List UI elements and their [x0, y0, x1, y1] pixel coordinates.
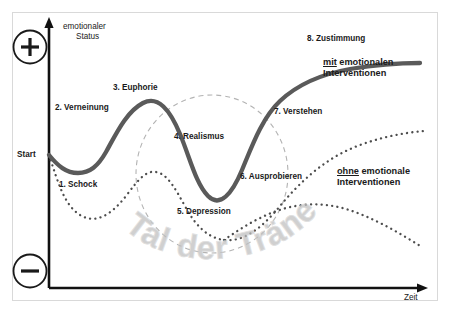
- legend-with-interventions: mit emotionalen Interventionen: [323, 57, 393, 79]
- legend-without-line1: ohne emotionale: [337, 166, 410, 177]
- legend-with-line1: mit emotionalen: [323, 57, 393, 68]
- diagram-canvas: Tal der Tränen: [0, 0, 450, 315]
- y-axis-label-line2: Status: [63, 32, 106, 42]
- legend-with-emphasis: mit: [323, 57, 337, 67]
- legend-without-emphasis: ohne: [337, 166, 359, 176]
- stage-label-zustimmung: 8. Zustimmung: [307, 34, 365, 44]
- start-label: Start: [17, 150, 36, 160]
- stage-label-ausprobieren: 6. Ausprobieren: [240, 172, 302, 182]
- stage-label-depression: 5. Depression: [177, 207, 231, 217]
- y-axis-label-line1: emotionaler: [63, 22, 106, 32]
- negative-symbol-icon: [14, 255, 47, 288]
- legend-with-rest: emotionalen: [337, 57, 394, 67]
- tal-der-traenen-diagram: Tal der Tränen emotionaler Status Zeit S…: [0, 0, 450, 315]
- positive-symbol-icon: [14, 31, 47, 64]
- stage-label-verstehen: 7. Verstehen: [274, 107, 322, 117]
- stage-label-euphorie: 3. Euphorie: [113, 83, 158, 93]
- y-axis-label: emotionaler Status: [63, 22, 106, 41]
- stage-label-realismus: 4. Realismus: [174, 132, 224, 142]
- legend-without-line2: Interventionen: [337, 177, 410, 188]
- legend-without-interventions: ohne emotionale Interventionen: [337, 166, 410, 188]
- x-axis-label: Zeit: [404, 293, 418, 303]
- legend-with-line2: Interventionen: [323, 68, 393, 79]
- legend-without-rest: emotionale: [359, 166, 410, 176]
- stage-label-verneinung: 2. Verneinung: [55, 103, 109, 113]
- stage-label-schock: 1. Schock: [59, 180, 97, 190]
